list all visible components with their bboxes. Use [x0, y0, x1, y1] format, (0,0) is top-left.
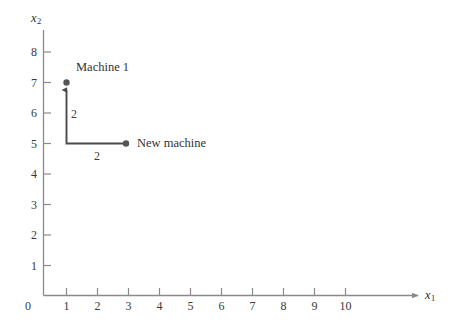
x-tick-label-8: 8	[281, 300, 287, 312]
y-tick-label-2: 2	[31, 229, 37, 241]
y-axis-label: x2	[31, 12, 41, 25]
rectilinear-distance-plot: x2 x1 0 1 2 3 4 5 6 7 8 9 10 1 2 3 4 5 6…	[0, 0, 459, 330]
x-axis-label-sub: 1	[431, 293, 436, 303]
x-tick-label-4: 4	[157, 300, 163, 312]
x-axis-ticks	[67, 288, 346, 296]
data-point-new-machine	[123, 140, 129, 146]
y-axis-label-letter: x	[31, 11, 37, 25]
x-tick-label-3: 3	[126, 300, 132, 312]
x-tick-label-1: 1	[64, 300, 70, 312]
x-tick-label-5: 5	[188, 300, 194, 312]
new-machine-label: New machine	[137, 137, 206, 150]
x-tick-label-6: 6	[219, 300, 225, 312]
plot-canvas	[0, 0, 459, 330]
origin-label: 0	[25, 300, 31, 312]
y-axis-label-sub: 2	[37, 16, 42, 26]
x-tick-label-10: 10	[340, 300, 352, 312]
machine-1-label: Machine 1	[76, 61, 129, 74]
x-tick-label-9: 9	[312, 300, 318, 312]
y-tick-label-8: 8	[31, 46, 37, 58]
x-tick-label-2: 2	[95, 300, 101, 312]
horizontal-distance-label: 2	[94, 150, 100, 162]
y-tick-label-4: 4	[31, 168, 37, 180]
vertical-distance-label: 2	[71, 108, 77, 120]
y-tick-label-7: 7	[31, 77, 37, 89]
x-axis-label: x1	[425, 289, 435, 302]
x-axis-label-letter: x	[425, 288, 431, 302]
y-tick-label-3: 3	[31, 199, 37, 211]
y-tick-label-5: 5	[31, 138, 37, 150]
y-axis-ticks	[44, 52, 52, 266]
y-tick-label-1: 1	[31, 260, 37, 272]
data-point-machine-1	[63, 79, 69, 85]
y-tick-label-6: 6	[31, 107, 37, 119]
x-tick-label-7: 7	[250, 300, 256, 312]
